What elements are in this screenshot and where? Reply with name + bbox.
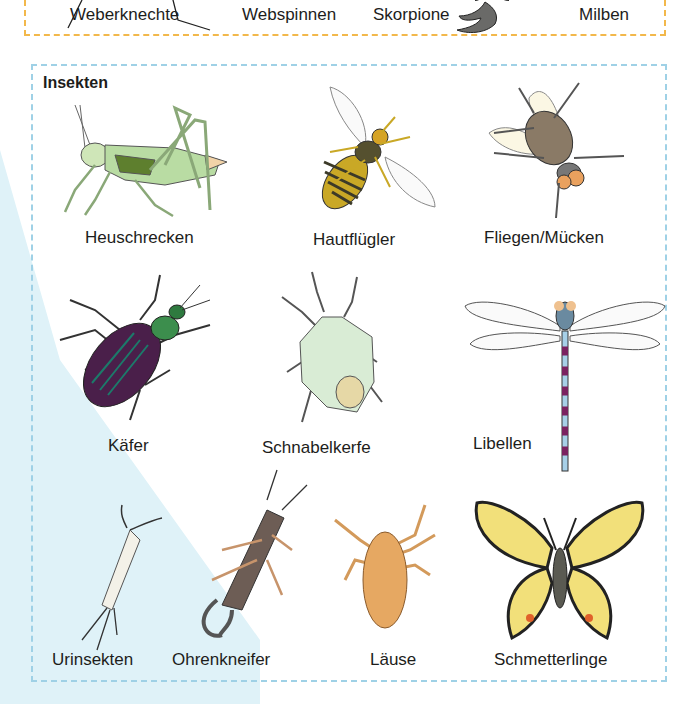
- arachnid-label-milben: Milben: [579, 5, 629, 25]
- beetle-icon: [60, 270, 220, 430]
- insect-card-grasshopper: Heuschrecken: [55, 100, 245, 250]
- butterfly-icon: [472, 498, 652, 648]
- grasshopper-icon: [55, 100, 245, 220]
- insect-card-silverfish: Urinsekten: [52, 500, 162, 675]
- fly-icon: [484, 78, 634, 218]
- insect-label-schnabelkerfe: Schnabelkerfe: [262, 438, 371, 458]
- insect-label-libellen: Libellen: [473, 434, 532, 454]
- insect-card-fly: Fliegen/Mücken: [484, 78, 634, 253]
- insect-label-laeuse: Läuse: [370, 650, 416, 670]
- arachnid-label-skorpione: Skorpione: [373, 5, 450, 25]
- insect-label-ohrenkneifer: Ohrenkneifer: [172, 650, 270, 670]
- insect-label-urinsekten: Urinsekten: [52, 650, 133, 670]
- insect-card-wasp: Hautflügler: [310, 82, 440, 252]
- insect-card-beetle: Käfer: [60, 270, 220, 460]
- arachnid-label-weberknechte: Weberknechte: [70, 5, 179, 25]
- wasp-icon: [310, 82, 440, 212]
- silverfish-icon: [52, 500, 162, 650]
- insect-label-kaefer: Käfer: [108, 436, 149, 456]
- insect-card-dragonfly: Libellen: [460, 296, 670, 476]
- scorpion-icon: [455, 0, 525, 40]
- arachnid-label-webspinnen: Webspinnen: [242, 5, 336, 25]
- insect-label-schmetterlinge: Schmetterlinge: [494, 650, 607, 670]
- louse-icon: [330, 500, 440, 650]
- insect-card-louse: Läuse: [330, 500, 440, 675]
- insect-card-butterfly: Schmetterlinge: [472, 498, 652, 675]
- insect-label-fliegen-muecken: Fliegen/Mücken: [484, 228, 604, 248]
- earwig-icon: [172, 470, 312, 645]
- shield-bug-icon: [262, 272, 402, 432]
- insect-card-shield-bug: Schnabelkerfe: [262, 272, 402, 462]
- insect-label-heuschrecken: Heuschrecken: [85, 228, 194, 248]
- insects-title: Insekten: [43, 74, 108, 92]
- insect-card-earwig: Ohrenkneifer: [172, 470, 312, 675]
- insect-label-hautfluegler: Hautflügler: [313, 230, 395, 250]
